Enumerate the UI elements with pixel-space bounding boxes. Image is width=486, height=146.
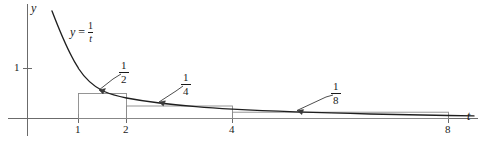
leader-arrow-quarter-shaft: [159, 91, 176, 102]
t-tick-label-1: 1: [75, 124, 81, 135]
quarter-numerator: 1: [181, 72, 191, 83]
rectangle-label-eighth: 1 8: [331, 81, 341, 106]
quarter-denominator: 4: [181, 86, 191, 97]
curve-equation: y = 1 t: [70, 21, 93, 44]
rectangle-half: [79, 94, 127, 119]
half-denominator: 2: [119, 74, 129, 85]
y-axis-label: y: [31, 2, 36, 14]
leader-arrow-eighth-shaft: [297, 97, 326, 111]
equation-denominator: t: [88, 34, 93, 44]
t-axis-label: t: [467, 110, 470, 122]
figure-hyperbola-rectangles: y t 1 1 2 4 8 y = 1 t 1 2 1 4 1 8: [0, 0, 486, 146]
equation-lhs: y: [70, 25, 75, 40]
equation-relation: =: [78, 25, 85, 40]
eighth-denominator: 8: [331, 95, 341, 106]
equation-numerator: 1: [88, 21, 93, 31]
hyperbola-curve: [52, 11, 474, 116]
t-tick-label-4: 4: [229, 124, 235, 135]
half-numerator: 1: [119, 60, 129, 71]
y-tick-label-1: 1: [14, 62, 20, 73]
rectangle-label-half: 1 2: [119, 60, 129, 85]
t-tick-label-8: 8: [445, 124, 451, 135]
equation-fraction: 1 t: [88, 21, 93, 44]
eighth-numerator: 1: [331, 81, 341, 92]
t-tick-label-2: 2: [123, 124, 129, 135]
rectangle-label-quarter: 1 4: [181, 72, 191, 97]
leader-arrow-half-shaft: [99, 79, 113, 90]
